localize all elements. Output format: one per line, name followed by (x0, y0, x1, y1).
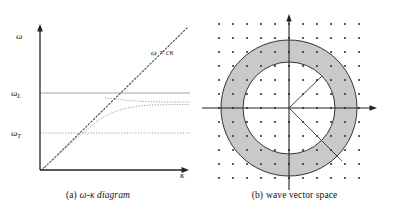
caption-b-text: wave vector space (266, 190, 337, 200)
omega-kappa-plot (0, 0, 196, 212)
panel-omega-kappa-diagram: ω κ ωL ωT ω = cκ (a)ω-κ diagram (0, 0, 196, 212)
panel-wave-vector-space: ky kx ω c 1 d (b)wave vector space (196, 0, 393, 212)
omega-L-subscript: L (17, 92, 21, 99)
annulus-shaded-region (196, 0, 393, 212)
omega-L-tick-label: ωL (11, 88, 21, 99)
caption-panel-a: (a)ω-κ diagram (0, 190, 196, 200)
caption-a-text: ω-κ diagram (80, 190, 130, 200)
kappa-axis-label: κ (180, 170, 184, 180)
omega-axis-label: ω (16, 31, 22, 41)
caption-panel-b: (b)wave vector space (196, 190, 393, 200)
omega-axis-arrowhead (37, 24, 43, 32)
caption-a-label: (a) (66, 190, 77, 200)
light-line-equation-label: ω = cκ (151, 48, 174, 57)
omega-T-subscript: T (17, 132, 21, 139)
wave-vector-space-plot (196, 0, 393, 212)
caption-b-label: (b) (252, 190, 263, 200)
lower-polariton-branch (43, 105, 190, 169)
omega-T-tick-label: ωT (11, 128, 21, 139)
figure-container: ω κ ωL ωT ω = cκ (a)ω-κ diagram (0, 0, 393, 212)
upper-polariton-branch (105, 98, 190, 102)
